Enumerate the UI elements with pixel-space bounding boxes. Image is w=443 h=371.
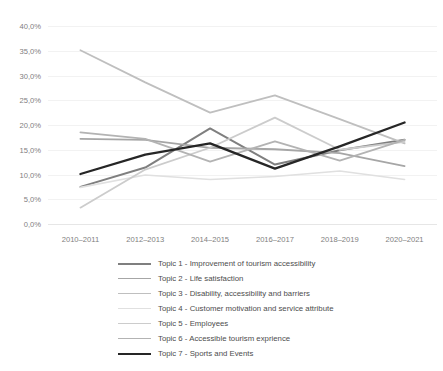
legend-swatch-topic-4 — [118, 308, 151, 309]
x-axis-tick-label: 2018–2019 — [321, 235, 359, 244]
legend-label-topic-7: Topic 7 - Sports and Events — [158, 350, 253, 358]
legend-label-topic-1: Topic 1 - Improvement of tourism accessi… — [158, 260, 315, 268]
legend-swatch-topic-1 — [118, 263, 151, 265]
y-axis-tick-label: 30,0% — [19, 72, 41, 81]
chart-legend: Topic 1 - Improvement of tourism accessi… — [0, 256, 443, 371]
legend-swatch-topic-6 — [118, 338, 151, 339]
y-axis-tick-labels: 0,0%5,0%10,0%15,0%20,0%25,0%30,0%35,0%40… — [19, 22, 41, 229]
series-line-3 — [80, 50, 404, 143]
legend-list: Topic 1 - Improvement of tourism accessi… — [0, 256, 443, 361]
line-chart: 0,0%5,0%10,0%15,0%20,0%25,0%30,0%35,0%40… — [0, 0, 443, 371]
y-axis-tick-label: 10,0% — [19, 171, 41, 180]
y-axis-tick-label: 0,0% — [24, 220, 42, 229]
x-axis-tick-label: 2012–2013 — [126, 235, 164, 244]
legend-label-topic-6: Topic 6 - Accessible tourism exprience — [158, 335, 290, 343]
legend-item-topic-6[interactable]: Topic 6 - Accessible tourism exprience — [118, 331, 443, 346]
legend-swatch-topic-5 — [118, 323, 151, 324]
x-axis-tick-label: 2020–2021 — [386, 235, 424, 244]
series-lines — [80, 50, 404, 207]
y-axis-tick-label: 5,0% — [24, 195, 42, 204]
legend-swatch-topic-2 — [118, 278, 151, 279]
y-axis-tick-label: 15,0% — [19, 146, 41, 155]
plot-area: 0,0%5,0%10,0%15,0%20,0%25,0%30,0%35,0%40… — [0, 0, 443, 250]
legend-item-topic-4[interactable]: Topic 4 - Customer motivation and servic… — [118, 301, 443, 316]
x-axis-tick-label: 2016–2017 — [256, 235, 294, 244]
series-line-2 — [80, 139, 404, 166]
gridlines — [48, 27, 437, 225]
legend-label-topic-5: Topic 5 - Employees — [158, 320, 228, 328]
y-axis-tick-label: 35,0% — [19, 47, 41, 56]
legend-label-topic-3: Topic 3 - Disability, accessibility and … — [158, 290, 310, 298]
x-axis-tick-label: 2010–2011 — [62, 235, 99, 244]
legend-item-topic-2[interactable]: Topic 2 - Life satisfaction — [118, 271, 443, 286]
chart-canvas: 0,0%5,0%10,0%15,0%20,0%25,0%30,0%35,0%40… — [0, 0, 443, 250]
x-axis-tick-label: 2014–2015 — [191, 235, 229, 244]
legend-item-topic-5[interactable]: Topic 5 - Employees — [118, 316, 443, 331]
legend-swatch-topic-7 — [118, 353, 151, 355]
y-axis-tick-label: 40,0% — [19, 22, 41, 31]
legend-item-topic-3[interactable]: Topic 3 - Disability, accessibility and … — [118, 286, 443, 301]
legend-label-topic-2: Topic 2 - Life satisfaction — [158, 275, 243, 283]
x-axis-tick-labels: 2010–20112012–20132014–20152016–20172018… — [62, 235, 424, 244]
y-axis-tick-label: 20,0% — [19, 121, 41, 130]
series-line-5 — [80, 118, 404, 208]
y-axis-tick-label: 25,0% — [19, 96, 41, 105]
legend-item-topic-7[interactable]: Topic 7 - Sports and Events — [118, 346, 443, 361]
legend-item-topic-1[interactable]: Topic 1 - Improvement of tourism accessi… — [118, 256, 443, 271]
legend-swatch-topic-3 — [118, 293, 151, 294]
legend-label-topic-4: Topic 4 - Customer motivation and servic… — [158, 305, 334, 313]
